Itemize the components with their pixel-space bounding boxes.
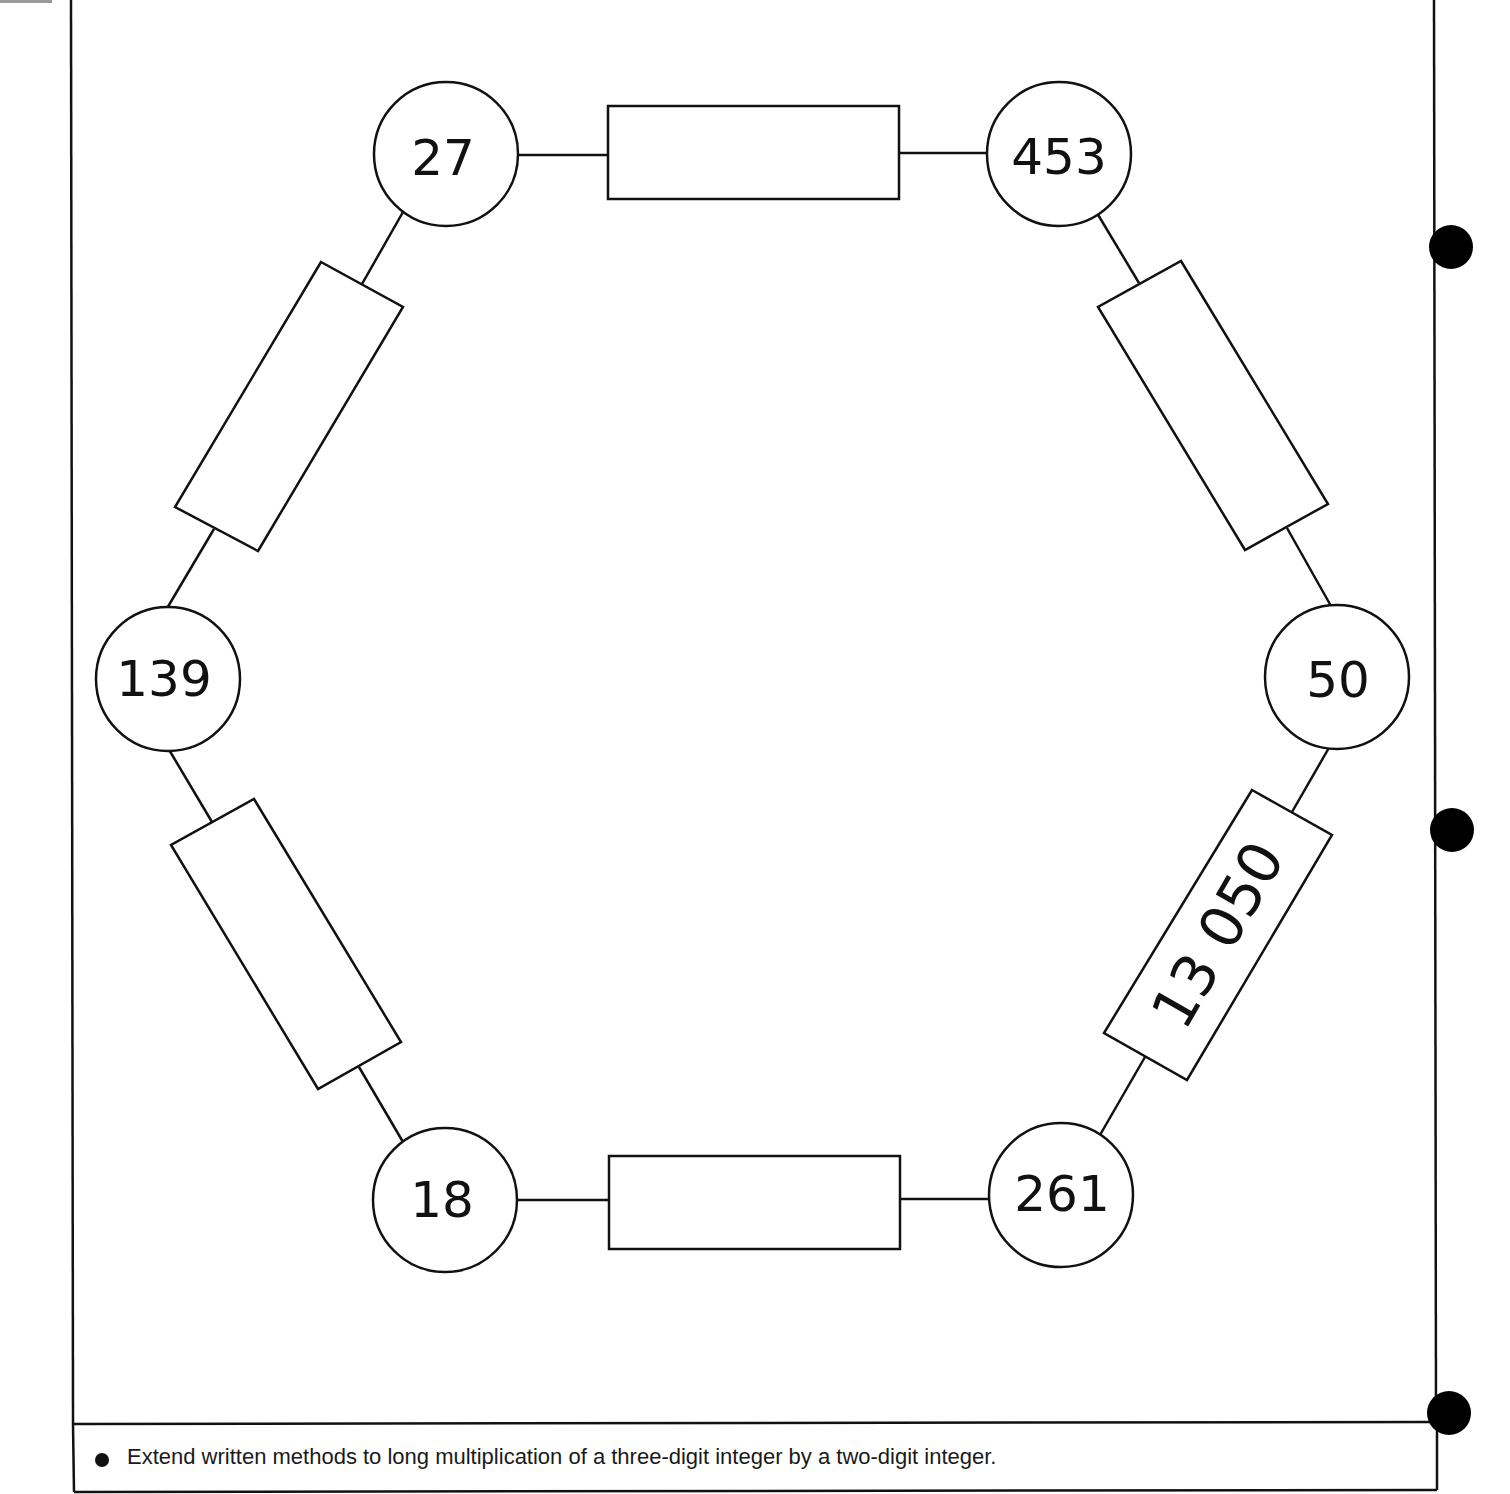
node-label-50: 50 xyxy=(1306,651,1370,709)
bullet-icon xyxy=(95,1453,109,1467)
learning-objective: Extend written methods to long multiplic… xyxy=(127,1444,996,1470)
answer-box-261-18[interactable] xyxy=(609,1156,900,1249)
binder-hole-icon xyxy=(1430,808,1474,852)
binder-hole-icon xyxy=(1429,225,1473,269)
answer-box-27-453[interactable] xyxy=(608,106,899,199)
answer-box-453-50[interactable] xyxy=(1098,261,1328,550)
multiplication-hexagon-diagram: 13 050 27 453 50 261 18 139 xyxy=(0,0,1510,1494)
node-label-139: 139 xyxy=(116,650,211,708)
page-frame xyxy=(71,0,1437,1492)
binder-hole-icon xyxy=(1427,1391,1471,1435)
answer-box-139-27[interactable] xyxy=(175,262,403,551)
answer-boxes xyxy=(171,106,1332,1249)
number-nodes xyxy=(96,82,1409,1272)
node-label-261: 261 xyxy=(1014,1165,1109,1223)
node-label-27: 27 xyxy=(411,129,475,187)
node-label-18: 18 xyxy=(410,1171,474,1229)
answer-box-18-139[interactable] xyxy=(171,799,401,1089)
node-label-453: 453 xyxy=(1011,128,1106,186)
